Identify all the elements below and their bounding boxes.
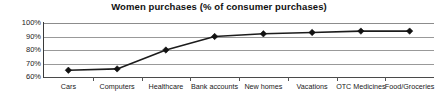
chart-title: Women purchases (% of consumer purchases… [0, 1, 438, 12]
x-axis-category-label: Vacations [297, 82, 328, 91]
y-axis-tick-label: 60% [1, 73, 41, 81]
x-axis-category-label: Healthcare [149, 82, 184, 91]
x-axis-category-label: Food/Groceries [385, 82, 435, 91]
y-axis-tick-label: 80% [1, 46, 41, 54]
x-axis-category-label: Cars [61, 82, 76, 91]
data-point-marker [260, 31, 266, 37]
data-point-marker [65, 67, 71, 73]
x-axis-tick [337, 77, 338, 81]
x-axis-category-label: Computers [100, 82, 135, 91]
x-axis-labels: CarsComputersHealthcareBank accountsNew … [44, 82, 434, 96]
x-axis-tick [385, 77, 386, 81]
x-axis-tick [239, 77, 240, 81]
chart-container: Women purchases (% of consumer purchases… [0, 0, 438, 96]
y-axis-tick-label: 100% [1, 19, 41, 27]
y-axis-tick-label: 70% [1, 60, 41, 68]
x-axis-category-label: New homes [244, 82, 282, 91]
data-point-marker [406, 28, 412, 34]
x-axis-tick [190, 77, 191, 81]
y-axis-tick-label: 90% [1, 33, 41, 41]
data-point-marker [309, 29, 315, 35]
x-axis-tick [93, 77, 94, 81]
data-point-marker [211, 33, 217, 39]
x-axis-tick [288, 77, 289, 81]
x-axis-tick [142, 77, 143, 81]
data-point-marker [163, 47, 169, 53]
series-line [68, 31, 409, 70]
plot-area [44, 23, 434, 77]
x-axis-category-label: Bank accounts [191, 82, 238, 91]
y-axis-labels: 100%90%80%70%60% [0, 0, 41, 96]
data-point-marker [358, 28, 364, 34]
data-series-women-purchases [44, 23, 434, 77]
x-axis-category-label: OTC Medicines [336, 82, 386, 91]
data-point-marker [114, 66, 120, 72]
